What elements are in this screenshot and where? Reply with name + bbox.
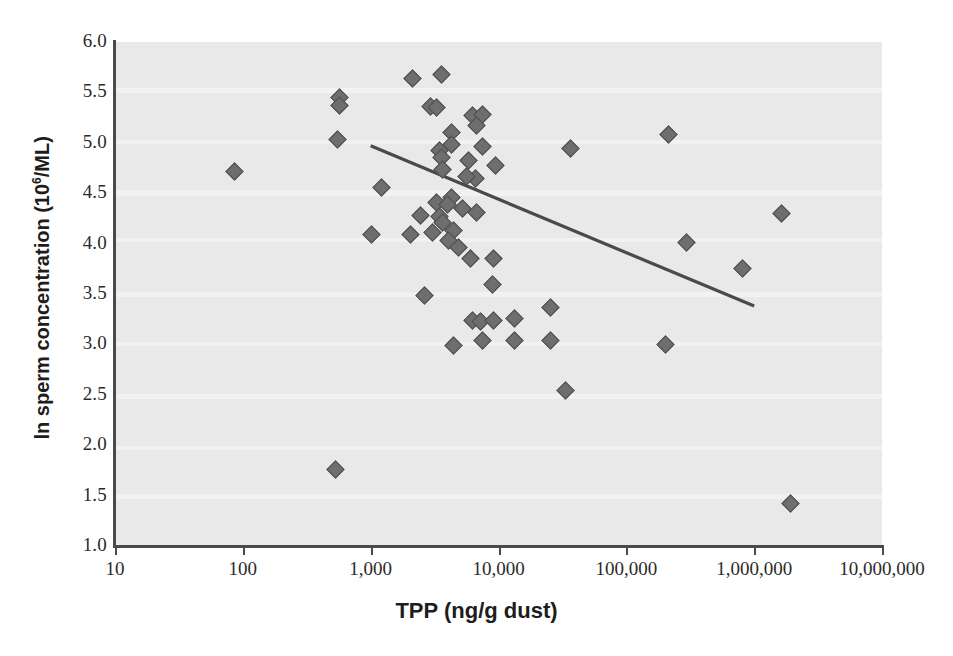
data-point: [782, 494, 800, 512]
y-axis-tick-label: 2.0: [61, 433, 107, 455]
y-axis-label-suffix: /ML): [31, 136, 53, 177]
y-axis-label-wrapper: ln sperm concentration (106/ML): [30, 28, 54, 548]
scan-band: [115, 88, 882, 93]
data-point: [432, 65, 450, 83]
data-point: [326, 460, 344, 478]
data-point: [362, 225, 380, 243]
x-axis-tick-mark: [371, 546, 373, 555]
data-point: [474, 138, 492, 156]
scan-band: [115, 494, 882, 499]
x-axis-tick-label: 100: [229, 558, 258, 580]
data-point: [541, 298, 559, 316]
data-point: [677, 233, 695, 251]
scan-band: [115, 342, 882, 346]
y-axis-label-exponent: 6: [30, 177, 44, 184]
data-point: [541, 331, 559, 349]
y-axis-tick-label: 3.5: [61, 282, 107, 304]
data-point: [404, 69, 422, 87]
scan-band: [115, 292, 882, 297]
data-point: [657, 335, 675, 353]
x-axis-tick-label: 1,000,000: [716, 558, 792, 580]
scan-band: [115, 394, 882, 399]
y-axis-tick-label: 1.5: [61, 484, 107, 506]
plot-area: [115, 42, 882, 546]
data-point: [226, 162, 244, 180]
y-axis-label-prefix: ln sperm concentration (10: [31, 184, 53, 440]
x-axis-tick-mark: [754, 546, 756, 555]
x-axis-tick-mark: [499, 546, 501, 555]
x-axis-tick-label: 10: [106, 558, 125, 580]
data-point: [561, 140, 579, 158]
data-point: [772, 204, 790, 222]
data-point: [484, 311, 502, 329]
scan-band: [115, 140, 882, 144]
data-point: [505, 309, 523, 327]
data-point: [486, 157, 504, 175]
y-axis-tick-label: 6.0: [61, 30, 107, 52]
y-axis-tick-label: 5.5: [61, 80, 107, 102]
data-point: [659, 126, 677, 144]
x-axis-tick-mark: [626, 546, 628, 555]
data-point: [459, 152, 477, 170]
y-axis-tick-label: 3.0: [61, 332, 107, 354]
x-axis-tick-mark: [882, 546, 884, 555]
data-point: [411, 206, 429, 224]
y-axis-line: [113, 40, 116, 548]
data-point: [434, 160, 452, 178]
scan-band: [115, 238, 882, 242]
data-point: [484, 250, 502, 268]
data-point: [461, 250, 479, 268]
data-point: [373, 178, 391, 196]
data-point: [445, 336, 463, 354]
data-point: [734, 260, 752, 278]
trend-line: [115, 42, 882, 546]
scan-band: [115, 446, 882, 450]
y-axis-tick-label: 1.0: [61, 534, 107, 556]
x-axis-tick-mark: [243, 546, 245, 555]
y-axis-tick-label: 2.5: [61, 383, 107, 405]
y-axis-tick-label: 4.0: [61, 232, 107, 254]
data-point: [505, 331, 523, 349]
data-point: [401, 225, 419, 243]
scatter-plot-figure: 1.01.52.02.53.03.54.04.55.05.56.0 101001…: [0, 0, 953, 656]
data-point: [557, 382, 575, 400]
y-axis-label: ln sperm concentration (106/ML): [30, 28, 54, 548]
x-axis-tick-label: 1,000: [349, 558, 392, 580]
data-point: [473, 331, 491, 349]
y-axis-tick-label: 4.5: [61, 181, 107, 203]
data-point: [416, 286, 434, 304]
scan-band: [115, 190, 882, 196]
data-point: [328, 131, 346, 149]
y-axis-tick-labels: 1.01.52.02.53.03.54.04.55.05.56.0: [55, 0, 107, 656]
data-point: [483, 276, 501, 294]
y-axis-tick-label: 5.0: [61, 131, 107, 153]
x-axis-tick-label: 100,000: [595, 558, 657, 580]
x-axis-label: TPP (ng/g dust): [0, 598, 953, 624]
x-axis-tick-label: 10,000: [472, 558, 524, 580]
x-axis-tick-mark: [115, 546, 117, 555]
x-axis-tick-label: 10,000,000: [839, 558, 925, 580]
